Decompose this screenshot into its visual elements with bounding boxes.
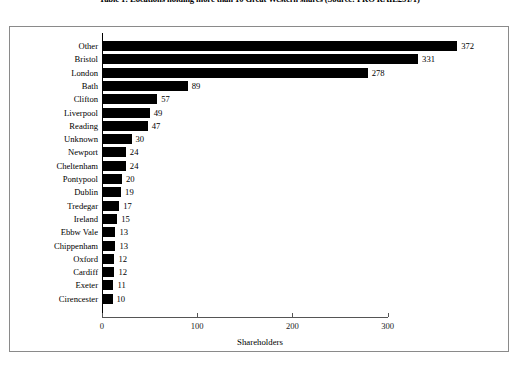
bar xyxy=(103,201,119,211)
bar-row: Bath89 xyxy=(10,81,510,91)
bar-category-label: Reading xyxy=(69,121,98,131)
x-axis-tick-label: 300 xyxy=(381,321,394,331)
bar-category-label: Bath xyxy=(82,81,98,91)
bar-row: Ireland15 xyxy=(10,214,510,224)
bar-category-label: Bristol xyxy=(75,54,98,64)
bar-category-label: Dublin xyxy=(74,187,98,197)
bar xyxy=(103,147,126,157)
bar xyxy=(103,241,115,251)
bar-value-label: 12 xyxy=(118,254,127,264)
bar-value-label: 24 xyxy=(130,161,139,171)
bar-value-label: 331 xyxy=(422,54,435,64)
bar-row: Unknown30 xyxy=(10,134,510,144)
bar-category-label: London xyxy=(71,68,98,78)
bar-row: Dublin19 xyxy=(10,187,510,197)
bar xyxy=(103,41,457,51)
x-axis-title: Shareholders xyxy=(10,337,510,347)
bar xyxy=(103,54,418,64)
bar-value-label: 17 xyxy=(123,201,132,211)
bar-category-label: Liverpool xyxy=(64,108,98,118)
bar-category-label: Chippenham xyxy=(54,241,98,251)
bar-row: London278 xyxy=(10,68,510,78)
bar xyxy=(103,187,121,197)
bar-row: Other372 xyxy=(10,41,510,51)
bar xyxy=(103,294,113,304)
x-axis-line xyxy=(102,317,388,318)
bar-category-label: Other xyxy=(78,41,98,51)
bar-value-label: 11 xyxy=(117,280,125,290)
bar-row: Clifton57 xyxy=(10,94,510,104)
bar xyxy=(103,174,122,184)
bar xyxy=(103,267,114,277)
bar-value-label: 15 xyxy=(121,214,130,224)
bar xyxy=(103,81,188,91)
bar-chart: 0100200300 Shareholders Other372Bristol3… xyxy=(10,27,510,353)
bar-value-label: 20 xyxy=(126,174,135,184)
bar-value-label: 89 xyxy=(192,81,201,91)
bar xyxy=(103,214,117,224)
bar-row: Pontypool20 xyxy=(10,174,510,184)
bar xyxy=(103,121,148,131)
bar-category-label: Unknown xyxy=(64,134,98,144)
bar-category-label: Ebbw Vale xyxy=(61,227,98,237)
x-axis-tick xyxy=(292,313,293,317)
bar xyxy=(103,254,114,264)
bar-row: Oxford12 xyxy=(10,254,510,264)
bar-category-label: Cirencester xyxy=(59,294,98,304)
bar-value-label: 372 xyxy=(461,41,474,51)
x-axis-tick-label: 0 xyxy=(100,321,104,331)
bar-row: Bristol331 xyxy=(10,54,510,64)
bar-row: Exeter11 xyxy=(10,280,510,290)
x-axis-tick xyxy=(197,313,198,317)
bar-row: Chippenham13 xyxy=(10,241,510,251)
bar-value-label: 30 xyxy=(136,134,145,144)
bar-category-label: Clifton xyxy=(74,94,98,104)
bar-category-label: Newport xyxy=(68,147,98,157)
chart-panel: 0100200300 Shareholders Other372Bristol3… xyxy=(9,26,509,352)
bar-value-label: 19 xyxy=(125,187,134,197)
bar xyxy=(103,94,157,104)
bar-value-label: 13 xyxy=(119,241,128,251)
bar xyxy=(103,227,115,237)
x-axis-tick-label: 100 xyxy=(191,321,204,331)
bar-row: Tredegar17 xyxy=(10,201,510,211)
bar xyxy=(103,280,113,290)
bar-value-label: 278 xyxy=(372,68,385,78)
bar-row: Cardiff12 xyxy=(10,267,510,277)
bar xyxy=(103,161,126,171)
bar-row: Ebbw Vale13 xyxy=(10,227,510,237)
bar-row: Liverpool49 xyxy=(10,108,510,118)
bar-category-label: Ireland xyxy=(74,214,98,224)
bar-category-label: Tredegar xyxy=(67,201,98,211)
bar-category-label: Cheltenham xyxy=(56,161,98,171)
bar-category-label: Oxford xyxy=(73,254,98,264)
x-axis-tick xyxy=(102,313,103,317)
bar-value-label: 49 xyxy=(154,108,163,118)
bar xyxy=(103,134,132,144)
bar-category-label: Exeter xyxy=(76,280,98,290)
bar-row: Cheltenham24 xyxy=(10,161,510,171)
x-axis-tick-label: 200 xyxy=(286,321,299,331)
bar-row: Cirencester10 xyxy=(10,294,510,304)
bar-value-label: 13 xyxy=(119,227,128,237)
bar-category-label: Pontypool xyxy=(63,174,98,184)
bar-value-label: 47 xyxy=(152,121,161,131)
bar-row: Newport24 xyxy=(10,147,510,157)
bar-row: Reading47 xyxy=(10,121,510,131)
bar-category-label: Cardiff xyxy=(73,267,98,277)
bar-value-label: 57 xyxy=(161,94,170,104)
x-axis-tick xyxy=(388,313,389,317)
figure-caption: Table 1: Locations holding more than 10 … xyxy=(0,0,519,5)
bar xyxy=(103,108,150,118)
bar-value-label: 24 xyxy=(130,147,139,157)
bar-value-label: 12 xyxy=(118,267,127,277)
bar xyxy=(103,68,368,78)
bar-value-label: 10 xyxy=(117,294,126,304)
